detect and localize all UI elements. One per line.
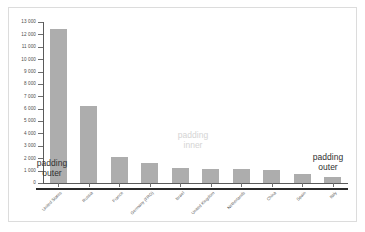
bar bbox=[141, 163, 158, 183]
bar-chart: 01 0002 0003 0004 0005 0006 0007 0008 00… bbox=[0, 0, 365, 232]
y-axis-tick-label-wrap: 7 000 bbox=[0, 94, 36, 100]
bar bbox=[294, 174, 311, 183]
bar bbox=[202, 169, 219, 183]
x-axis-tick bbox=[211, 183, 212, 187]
x-axis-label: France bbox=[111, 190, 124, 203]
y-axis-tick bbox=[38, 34, 43, 35]
y-axis-tick bbox=[38, 121, 43, 122]
y-axis-tick bbox=[38, 146, 43, 147]
y-axis-tick bbox=[38, 133, 43, 134]
bar bbox=[172, 168, 189, 183]
x-axis-label: Spain bbox=[296, 190, 307, 201]
x-axis-label: Russia bbox=[81, 190, 94, 203]
y-axis-tick-label-wrap: 6 000 bbox=[0, 106, 36, 112]
y-axis-tick-label-wrap: 11 000 bbox=[0, 44, 36, 50]
y-axis-tick-label: 4 000 bbox=[2, 131, 36, 136]
y-axis-tick-label: 12 000 bbox=[2, 32, 36, 37]
y-axis-tick bbox=[38, 47, 43, 48]
y-axis-tick bbox=[38, 109, 43, 110]
y-axis-tick-label-wrap: 3 000 bbox=[0, 143, 36, 149]
annotation-line-1: padding bbox=[26, 158, 78, 168]
annotation-padding-outer-right: padding outer bbox=[300, 152, 356, 172]
x-axis-label: Germany (FRG) bbox=[129, 190, 154, 215]
x-axis-tick bbox=[272, 183, 273, 187]
x-axis-tick bbox=[150, 183, 151, 187]
y-axis-tick-label-wrap: 8 000 bbox=[0, 81, 36, 87]
bar bbox=[111, 157, 128, 183]
y-axis-tick-label-wrap: 0 bbox=[0, 180, 36, 186]
y-axis-tick-label: 5 000 bbox=[2, 118, 36, 123]
y-axis-tick-label: 8 000 bbox=[2, 81, 36, 86]
x-axis-tick bbox=[119, 183, 120, 187]
y-axis-tick-label-wrap: 5 000 bbox=[0, 118, 36, 124]
y-axis-tick-label-wrap: 13 000 bbox=[0, 19, 36, 25]
chart-baseline bbox=[36, 188, 348, 190]
x-axis-tick bbox=[89, 183, 90, 187]
bar bbox=[324, 177, 341, 183]
annotation-padding-inner: padding inner bbox=[163, 130, 223, 150]
annotation-line-2: outer bbox=[26, 168, 78, 178]
x-axis-label: Italy bbox=[328, 190, 337, 199]
x-axis-label: Netherlands bbox=[226, 190, 246, 210]
annotation-padding-outer-left: padding outer bbox=[26, 158, 78, 178]
y-axis-tick-label: 9 000 bbox=[2, 69, 36, 74]
bar bbox=[233, 169, 250, 183]
y-axis-tick-label: 13 000 bbox=[2, 19, 36, 24]
x-axis-tick bbox=[333, 183, 334, 187]
y-axis-tick-label: 3 000 bbox=[2, 143, 36, 148]
y-axis-tick-label: 6 000 bbox=[2, 106, 36, 111]
y-axis-tick bbox=[38, 96, 43, 97]
y-axis-tick bbox=[38, 22, 43, 23]
annotation-line-1: padding bbox=[163, 130, 223, 140]
x-axis-label: China bbox=[265, 190, 276, 201]
y-axis-tick-label: 10 000 bbox=[2, 57, 36, 62]
y-axis-tick-label-wrap: 4 000 bbox=[0, 131, 36, 137]
bar bbox=[80, 106, 97, 183]
x-axis-label: United Kingdom bbox=[190, 190, 215, 215]
y-axis-tick-label: 7 000 bbox=[2, 94, 36, 99]
y-axis-tick bbox=[38, 84, 43, 85]
y-axis-tick bbox=[38, 72, 43, 73]
x-axis-tick bbox=[58, 183, 59, 187]
x-axis-tick bbox=[180, 183, 181, 187]
y-axis-tick-label: 0 bbox=[2, 180, 36, 185]
x-axis-tick bbox=[241, 183, 242, 187]
annotation-line-2: inner bbox=[163, 140, 223, 150]
y-axis-tick-label-wrap: 9 000 bbox=[0, 69, 36, 75]
y-axis-tick bbox=[38, 59, 43, 60]
y-axis-tick-label-wrap: 10 000 bbox=[0, 57, 36, 63]
y-axis-tick bbox=[38, 183, 43, 184]
y-axis-tick-label-wrap: 12 000 bbox=[0, 32, 36, 38]
x-axis-label: United States bbox=[41, 190, 63, 212]
annotation-line-1: padding bbox=[300, 152, 356, 162]
y-axis-tick-label: 11 000 bbox=[2, 44, 36, 49]
bar bbox=[263, 170, 280, 183]
annotation-line-2: outer bbox=[300, 162, 356, 172]
x-axis-tick bbox=[302, 183, 303, 187]
x-axis-label: Israel bbox=[174, 190, 185, 201]
